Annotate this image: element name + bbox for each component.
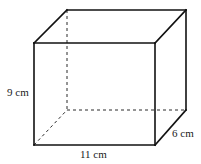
cuboid-shape (0, 0, 201, 164)
edge-top-left-connector (34, 10, 67, 43)
visible-edges-group (34, 10, 186, 145)
edge-top-right-connector (155, 10, 186, 43)
hidden-edges-group (34, 10, 186, 145)
depth-dimension-label: 6 cm (172, 127, 194, 139)
edge-bottom-left-connector-dashed (34, 110, 67, 145)
height-dimension-label: 9 cm (7, 86, 29, 98)
width-dimension-label: 11 cm (80, 148, 107, 160)
figure-canvas: 9 cm 11 cm 6 cm (0, 0, 201, 164)
